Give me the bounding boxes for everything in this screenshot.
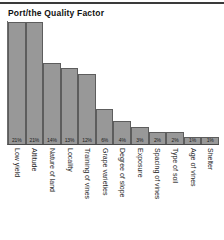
bar-value-label: 2% [171, 137, 178, 144]
category-label: Exposure [136, 148, 144, 178]
bar: 4% [113, 121, 131, 144]
chart-title: Port/the Quality Factor [8, 8, 104, 18]
category-axis-labels: Low yieldAltitudeNature of landLocalityT… [8, 148, 219, 238]
bar: 21% [26, 22, 44, 144]
category-label: Training of vines [83, 148, 91, 199]
bar-column: 1% [184, 21, 202, 144]
category-label: Spacing of vines [153, 148, 161, 199]
category-label-slot: Grape varieties [96, 148, 114, 238]
bar-column: 3% [131, 21, 149, 144]
bar-value-label: 21% [30, 137, 40, 144]
category-label: Grape varieties [101, 148, 109, 195]
category-label: Degree of slope [118, 148, 126, 197]
category-label: Shelter [206, 148, 214, 170]
category-label-slot: Shelter [201, 148, 219, 238]
bar-column: 1% [201, 21, 219, 144]
category-label-slot: Exposure [131, 148, 149, 238]
bar-value-label: 1% [189, 137, 196, 144]
chart-figure: Port/the Quality Factor 21%21%14%13%12%6… [0, 0, 224, 240]
bar-value-label: 4% [119, 137, 126, 144]
bar-column: 14% [43, 21, 61, 144]
bar: 3% [131, 127, 149, 144]
bar-column: 2% [149, 21, 167, 144]
bar-column: 6% [96, 21, 114, 144]
bar: 2% [166, 132, 184, 144]
category-label: Altitude [30, 148, 38, 171]
bar-column: 12% [78, 21, 96, 144]
bar: 14% [43, 63, 61, 144]
bar-value-label: 21% [12, 137, 22, 144]
bar-column: 13% [61, 21, 79, 144]
bar: 12% [78, 74, 96, 144]
bar: 21% [8, 22, 26, 144]
category-label-slot: Low yield [8, 148, 26, 238]
bar: 1% [201, 137, 219, 144]
bar-column: 21% [26, 21, 44, 144]
plot-area: 21%21%14%13%12%6%4%3%2%2%1%1% [7, 21, 219, 145]
bar: 2% [149, 132, 167, 144]
category-label-slot: Spacing of vines [149, 148, 167, 238]
header-divider [0, 2, 224, 4]
category-label-slot: Training of vines [78, 148, 96, 238]
bar-value-label: 14% [47, 137, 57, 144]
bar-value-label: 2% [154, 137, 161, 144]
category-label-slot: Degree of slope [113, 148, 131, 238]
bar-value-label: 13% [65, 137, 75, 144]
bar: 13% [61, 68, 79, 144]
bar-value-label: 12% [82, 137, 92, 144]
category-label: Low yield [13, 148, 21, 177]
category-label-slot: Locality [61, 148, 79, 238]
category-label: Type of soil [171, 148, 179, 183]
bar-column: 21% [8, 21, 26, 144]
category-label-slot: Nature of land [43, 148, 61, 238]
bar-column: 2% [166, 21, 184, 144]
category-label-slot: Type of soil [166, 148, 184, 238]
bar-series: 21%21%14%13%12%6%4%3%2%2%1%1% [8, 21, 219, 144]
category-label: Locality [66, 148, 74, 172]
category-label-slot: Altitude [26, 148, 44, 238]
bar-value-label: 3% [136, 137, 143, 144]
bar-column: 4% [113, 21, 131, 144]
bar-value-label: 6% [101, 137, 108, 144]
bar-value-label: 1% [207, 137, 214, 144]
category-label-slot: Age of vines [184, 148, 202, 238]
category-label: Age of vines [189, 148, 197, 187]
bar: 6% [96, 109, 114, 144]
bar: 1% [184, 137, 202, 144]
category-label: Nature of land [48, 148, 56, 192]
